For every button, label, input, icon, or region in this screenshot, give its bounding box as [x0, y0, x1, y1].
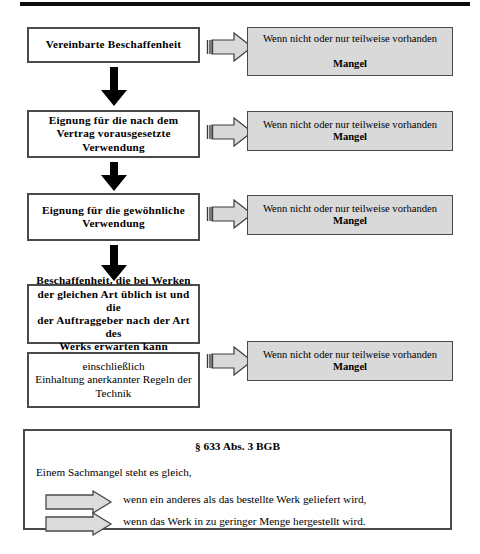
statute-intro: Einem Sachmangel steht es gleich,: [36, 466, 192, 478]
criteria-box-5-label: einschließlich Einhaltung anerkannter Re…: [29, 360, 198, 400]
statute-item-1: wenn ein anderes als das bestellte Werk …: [123, 493, 366, 505]
consequence-box-1-result: Mangel: [248, 58, 452, 71]
right-block-arrow-icon-bullet-1: [45, 490, 113, 514]
criteria-box-1-label: Vereinbarte Beschaffenheit: [29, 38, 198, 51]
consequence-box-1-condition: Wenn nicht oder nur teilweise vorhanden: [248, 33, 452, 46]
consequence-box-4-condition: Wenn nicht oder nur teilweise vorhanden: [248, 349, 452, 362]
criteria-box-4-label: Beschaffenheit, die bei Werken der gleic…: [29, 274, 198, 353]
consequence-box-3-result: Mangel: [248, 215, 452, 228]
consequence-box-2: Wenn nicht oder nur teilweise vorhanden …: [247, 111, 453, 151]
diagram-canvas: Vereinbarte Beschaffenheit Eignung für d…: [0, 0, 480, 554]
right-block-arrow-icon-bullet-2: [45, 512, 113, 536]
statute-item-2: wenn das Werk in zu geringer Menge herge…: [123, 515, 366, 527]
top-horizontal-rule: [20, 2, 470, 6]
down-arrow-icon-1: [101, 67, 127, 106]
consequence-box-1: Wenn nicht oder nur teilweise vorhanden …: [247, 27, 453, 76]
consequence-box-4-result: Mangel: [248, 361, 452, 374]
criteria-box-5: einschließlich Einhaltung anerkannter Re…: [27, 352, 200, 408]
statute-panel: § 633 Abs. 3 BGB Einem Sachmangel steht …: [23, 429, 452, 530]
consequence-box-4: Wenn nicht oder nur teilweise vorhanden …: [247, 341, 453, 381]
criteria-box-3-label: Eignung für die gewöhnliche Verwendung: [29, 204, 198, 230]
criteria-box-2: Eignung für die nach dem Vertrag vorausg…: [27, 110, 200, 158]
consequence-box-2-result: Mangel: [248, 131, 452, 144]
criteria-box-1: Vereinbarte Beschaffenheit: [27, 27, 200, 63]
consequence-box-2-condition: Wenn nicht oder nur teilweise vorhanden: [248, 119, 452, 132]
criteria-box-4: Beschaffenheit, die bei Werken der gleic…: [27, 284, 200, 344]
criteria-box-2-label: Eignung für die nach dem Vertrag vorausg…: [29, 114, 198, 154]
consequence-box-3-condition: Wenn nicht oder nur teilweise vorhanden: [248, 203, 452, 216]
consequence-box-3: Wenn nicht oder nur teilweise vorhanden …: [247, 195, 453, 235]
statute-title: § 633 Abs. 3 BGB: [25, 440, 450, 452]
down-arrow-icon-2: [101, 162, 127, 190]
criteria-box-3: Eignung für die gewöhnliche Verwendung: [27, 193, 200, 241]
down-arrow-icon-3: [101, 245, 127, 281]
